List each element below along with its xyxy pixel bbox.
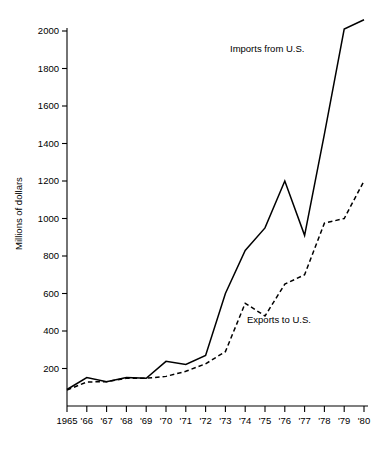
x-tick-label: '70 [160,415,172,426]
x-tick-label: '71 [180,415,192,426]
series-label-exports-to-u-s: Exports to U.S. [247,314,311,325]
y-tick-label: 800 [43,250,59,261]
line-chart: 200400600800100012001400160018002000 196… [0,0,384,449]
x-tick-label: '79 [338,415,350,426]
x-tick-label: '77 [298,415,310,426]
y-tick-label: 1800 [38,63,59,74]
chart-canvas: 200400600800100012001400160018002000 196… [0,0,384,449]
x-tick-label: 1965 [56,415,77,426]
x-tick-label: '75 [259,415,271,426]
series-label-imports-from-u-s: Imports from U.S. [230,43,304,54]
x-tick-label: '78 [318,415,330,426]
y-tick-label: 2000 [38,25,59,36]
y-tick-label: 400 [43,325,59,336]
y-axis-title: Millions of dollars [13,177,24,250]
y-tick-label: 200 [43,363,59,374]
y-tick-label: 1200 [38,175,59,186]
x-tick-label: '72 [199,415,211,426]
x-tick-label: '76 [279,415,291,426]
x-tick-label: '80 [358,415,370,426]
x-tick-label: '68 [120,415,132,426]
x-tick-label: '69 [140,415,152,426]
x-tick-label: '66 [81,415,93,426]
y-tick-label: 1600 [38,100,59,111]
y-tick-label: 1000 [38,213,59,224]
x-tick-label: '67 [100,415,112,426]
y-tick-label: 600 [43,288,59,299]
y-tick-label: 1400 [38,138,59,149]
x-tick-label: '74 [239,415,251,426]
x-tick-label: '73 [219,415,231,426]
